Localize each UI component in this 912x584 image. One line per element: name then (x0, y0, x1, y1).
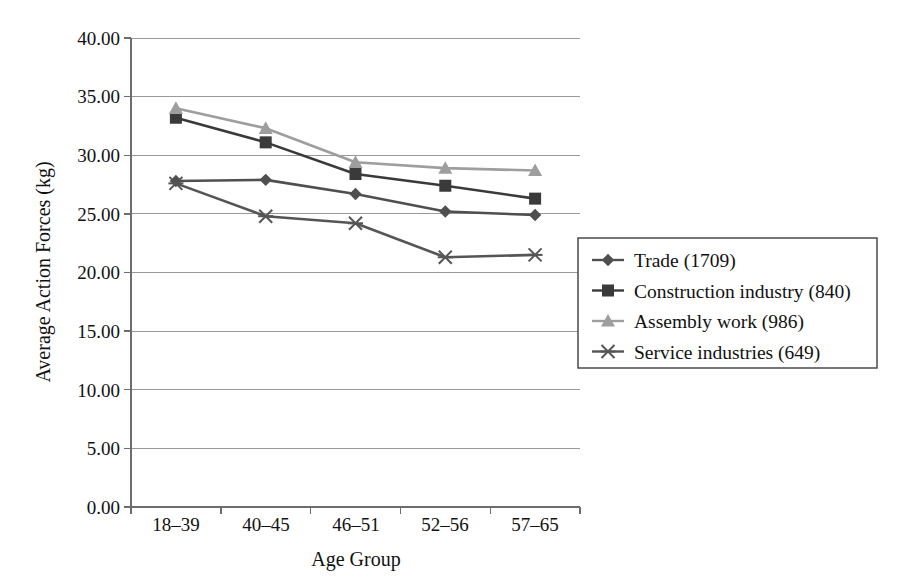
y-tick-labels-group: 40.00 35.00 30.00 25.00 20.00 15.00 10.0… (77, 28, 120, 518)
series-3-point-4 (528, 248, 543, 261)
x-tick-labels-group: 18–39 40–45 46–51 52–56 57–65 (152, 514, 559, 535)
series-3-point-1 (258, 210, 273, 223)
chart-legend: Trade (1709)Construction industry (840)A… (578, 238, 877, 368)
series-2 (169, 101, 542, 176)
y-tick-label-35: 35.00 (77, 86, 120, 107)
series-1-point-3 (439, 180, 451, 192)
series-0-point-3 (439, 205, 451, 217)
legend-marker-square-icon (602, 285, 614, 297)
series-1-point-1 (260, 136, 272, 148)
y-tick-label-20: 20.00 (77, 262, 120, 283)
legend-label-0: Trade (1709) (634, 250, 736, 272)
y-tick-label-40: 40.00 (77, 28, 120, 49)
series-3-point-3 (438, 251, 453, 264)
x-tick-label-18-39: 18–39 (152, 514, 200, 535)
line-chart-figure: 40.00 35.00 30.00 25.00 20.00 15.00 10.0… (0, 0, 912, 584)
data-series-group (168, 101, 542, 263)
series-0-point-4 (529, 209, 541, 221)
series-2-point-0 (169, 101, 183, 114)
chart-canvas: 40.00 35.00 30.00 25.00 20.00 15.00 10.0… (0, 0, 912, 584)
y-tick-label-30: 30.00 (77, 145, 120, 166)
x-tick-label-40-45: 40–45 (242, 514, 290, 535)
gridlines-group (131, 38, 580, 507)
y-tick-group (124, 38, 131, 507)
series-0-point-1 (260, 174, 272, 186)
y-tick-label-5: 5.00 (87, 438, 120, 459)
y-tick-label-25: 25.00 (77, 204, 120, 225)
legend-label-1: Construction industry (840) (634, 281, 851, 303)
series-1-point-2 (350, 168, 362, 180)
y-tick-label-10: 10.00 (77, 380, 120, 401)
y-axis-title: Average Action Forces (kg) (32, 161, 55, 382)
x-tick-group (131, 507, 580, 514)
series-0-point-2 (349, 188, 361, 200)
series-3-point-2 (348, 217, 363, 230)
x-tick-label-46-51: 46–51 (332, 514, 380, 535)
y-tick-label-0: 0.00 (87, 497, 120, 518)
series-1-point-4 (529, 193, 541, 205)
x-tick-label-57-65: 57–65 (511, 514, 559, 535)
x-axis-title: Age Group (311, 548, 400, 571)
legend-label-2: Assembly work (986) (634, 311, 804, 333)
y-tick-label-15: 15.00 (77, 321, 120, 342)
legend-label-3: Service industries (649) (634, 342, 820, 364)
x-tick-label-52-56: 52–56 (421, 514, 469, 535)
